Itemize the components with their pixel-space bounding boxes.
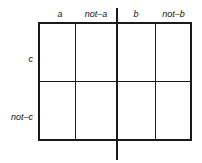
column-header-a-label: a bbox=[57, 9, 62, 19]
row-label-c: c bbox=[0, 53, 33, 65]
column-header-not-a: not–a bbox=[75, 8, 117, 20]
row-label-not-c: not–c bbox=[0, 111, 33, 123]
row-label-not-c-text: not–c bbox=[11, 112, 33, 122]
column-header-b-label: b bbox=[133, 9, 138, 19]
row-divider-1 bbox=[38, 81, 192, 82]
center-axis-line bbox=[116, 8, 118, 160]
column-header-not-b-label: not–b bbox=[162, 9, 185, 19]
column-header-not-b: not–b bbox=[155, 8, 192, 20]
row-label-c-text: c bbox=[29, 54, 34, 64]
contingency-grid-figure: a not–a b not–b c not–c bbox=[0, 0, 202, 163]
column-header-not-a-label: not–a bbox=[85, 9, 108, 19]
column-header-a: a bbox=[45, 8, 75, 20]
column-header-b: b bbox=[117, 8, 155, 20]
